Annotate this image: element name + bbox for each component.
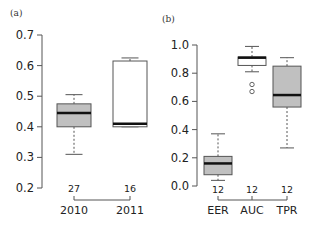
box-2011 bbox=[113, 58, 147, 127]
box-2010 bbox=[57, 95, 91, 155]
boxplot-panel-a: (a)0.70.60.50.40.30.2272010162011 bbox=[10, 8, 147, 217]
x-category-label: AUC bbox=[240, 204, 264, 217]
box-tpr bbox=[273, 58, 301, 148]
y-tick-label: 0.8 bbox=[171, 66, 189, 80]
y-tick-label: 0.2 bbox=[171, 151, 189, 165]
box-eer bbox=[204, 134, 232, 181]
x-category-label: 2011 bbox=[116, 204, 144, 217]
panel-label: (a) bbox=[10, 8, 22, 18]
y-tick-label: 0.5 bbox=[16, 89, 34, 103]
x-category-label: TPR bbox=[276, 204, 298, 217]
y-tick-label: 0.4 bbox=[16, 120, 34, 134]
box-auc bbox=[238, 46, 266, 93]
y-tick-label: 0.4 bbox=[171, 123, 189, 137]
boxplot-figure: (a)0.70.60.50.40.30.2272010162011(b)1.00… bbox=[0, 0, 314, 225]
y-tick-label: 0.6 bbox=[171, 94, 189, 108]
sample-count: 12 bbox=[281, 184, 293, 195]
y-tick-label: 0.2 bbox=[16, 181, 34, 195]
sample-count: 12 bbox=[246, 184, 258, 195]
panel-label: (b) bbox=[162, 14, 175, 24]
y-tick-label: 0.0 bbox=[171, 179, 189, 193]
y-tick-label: 0.6 bbox=[16, 59, 34, 73]
sample-count: 12 bbox=[212, 184, 224, 195]
sample-count: 16 bbox=[124, 183, 136, 194]
sample-count: 27 bbox=[68, 183, 80, 194]
x-category-label: EER bbox=[207, 204, 229, 217]
outlier-point bbox=[250, 89, 254, 93]
x-category-label: 2010 bbox=[60, 204, 88, 217]
y-tick-label: 0.7 bbox=[16, 28, 34, 42]
y-tick-label: 1.0 bbox=[171, 38, 189, 52]
y-tick-label: 0.3 bbox=[16, 150, 34, 164]
boxplot-panel-b: (b)1.00.80.60.40.20.012EER12AUC12TPR bbox=[162, 14, 301, 217]
outlier-point bbox=[250, 82, 254, 86]
